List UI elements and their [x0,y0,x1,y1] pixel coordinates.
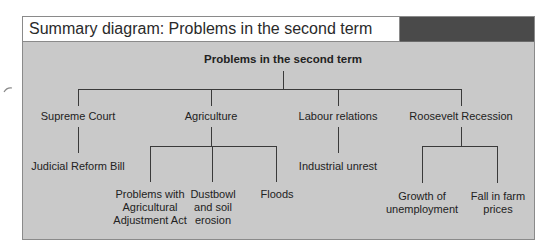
connector-line [497,146,498,183]
connector-line [212,146,213,182]
connector-line [338,89,339,106]
branch-agriculture: Agriculture [185,110,238,123]
connector-line [78,89,79,106]
leaf-floods: Floods [260,188,293,201]
connector-line [461,127,462,147]
leaf-industrial-unrest: Industrial unrest [299,160,377,173]
connector-line [211,89,212,106]
leaf-problems-aaa: Problems with Agricultural Adjustment Ac… [113,188,186,227]
header-dark-block [400,17,534,42]
branch-supreme-court: Supreme Court [41,110,116,123]
branch-roosevelt-recession: Roosevelt Recession [409,110,512,123]
leaf-fall-farm-prices: Fall in farm prices [471,190,525,216]
diagram-header: Summary diagram: Problems in the second … [23,17,400,42]
diagram-title: Summary diagram: Problems in the second … [29,20,372,38]
connector-line [78,89,462,90]
connector-line [461,89,462,106]
connector-line [283,71,284,90]
leaf-growth-unemployment: Growth of unemployment [386,190,458,216]
root-node: Problems in the second term [204,53,362,66]
leaf-judicial-reform-bill: Judicial Reform Bill [31,160,125,173]
leaf-dustbowl: Dustbowl and soil erosion [190,188,235,227]
connector-line [338,127,339,153]
connector-line [422,146,423,183]
branch-labour-relations: Labour relations [299,110,378,123]
connector-line [150,146,277,147]
connector-line [276,146,277,182]
connector-line [211,127,212,147]
connector-line [150,146,151,182]
connector-line [422,146,498,147]
margin-mark-icon [3,87,13,93]
connector-line [78,127,79,153]
